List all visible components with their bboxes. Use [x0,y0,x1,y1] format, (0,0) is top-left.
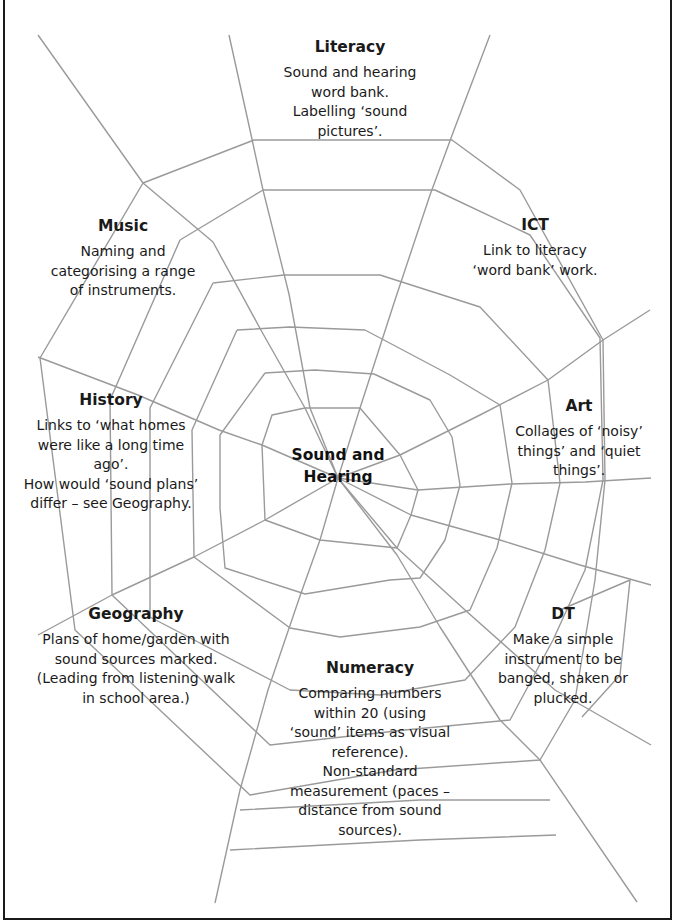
node-music: Music Naming and categorising a range of… [28,217,218,301]
node-title: Geography [24,605,248,623]
node-literacy: Literacy Sound and hearing word bank. La… [255,38,445,141]
node-dt: DT Make a simple instrument to be banged… [478,605,648,708]
node-body: Make a simple instrument to be banged, s… [478,630,648,708]
node-body: Sound and hearing word bank. Labelling ‘… [255,63,445,141]
node-title: Literacy [255,38,445,56]
node-body: Collages of ‘noisy’ things’ and ‘quiet t… [494,422,664,481]
node-ict: ICT Link to literacy ‘word bank’ work. [440,216,630,280]
node-geography: Geography Plans of home/garden with soun… [24,605,248,708]
node-numeracy: Numeracy Comparing numbers within 20 (us… [270,659,470,840]
node-body: Naming and categorising a range of instr… [28,242,218,301]
node-history: History Links to ‘what homes were like a… [8,391,214,514]
node-art: Art Collages of ‘noisy’ things’ and ‘qui… [494,397,664,481]
node-body: Links to ‘what homes were like a long ti… [8,416,214,514]
node-title: History [8,391,214,409]
node-title: Music [28,217,218,235]
center-topic-sound-and-hearing: Sound and Hearing [268,444,408,488]
node-title: ICT [440,216,630,234]
node-body: Comparing numbers within 20 (using ‘soun… [270,684,470,840]
node-title: Art [494,397,664,415]
node-title: Numeracy [270,659,470,677]
node-body: Plans of home/garden with sound sources … [24,630,248,708]
node-body: Link to literacy ‘word bank’ work. [440,241,630,280]
node-title: DT [478,605,648,623]
